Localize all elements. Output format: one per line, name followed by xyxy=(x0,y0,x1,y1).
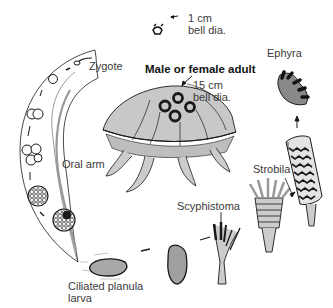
strobila-mature xyxy=(285,116,322,226)
diagram-title: Male or female adult xyxy=(145,63,256,75)
ephyra xyxy=(278,72,308,105)
scyphistoma xyxy=(214,212,240,284)
young-medusa xyxy=(153,15,178,34)
label-planula-1: Ciliated planula xyxy=(68,280,143,292)
label-scyphistoma: Scyphistoma xyxy=(177,200,240,212)
planula-larva xyxy=(80,249,150,279)
label-ephyra: Ephyra xyxy=(267,47,302,59)
label-zygote: Zygote xyxy=(89,60,123,72)
label-adult-size-1: 15 cm xyxy=(193,79,223,91)
settled-polyp xyxy=(168,237,210,284)
label-adult-size-2: bell dia. xyxy=(193,91,231,103)
label-small-size-2: bell dia. xyxy=(188,24,226,36)
label-small-size-1: 1 cm xyxy=(188,12,212,24)
strobila-young xyxy=(250,178,290,252)
label-planula-2: larva xyxy=(68,292,92,304)
label-oral-arm: Oral arm xyxy=(62,158,105,170)
label-strobila: Strobila xyxy=(253,163,290,175)
